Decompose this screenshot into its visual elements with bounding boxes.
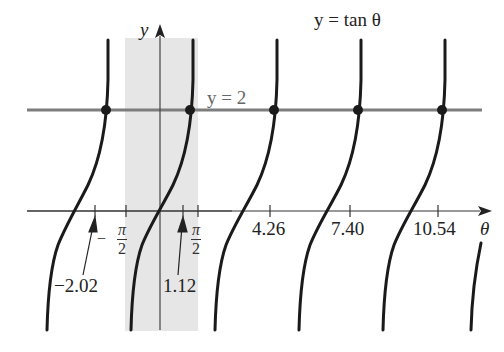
tick-label-neg-2-02: −2.02 xyxy=(54,276,98,295)
intersection-point xyxy=(101,105,111,115)
intersection-point xyxy=(353,105,363,115)
neg-sign: − xyxy=(97,231,106,247)
tick-label-4-26: 4.26 xyxy=(252,219,285,238)
tan-branch-5 xyxy=(383,40,445,330)
tan-curve xyxy=(47,40,481,330)
tan-branch-4 xyxy=(299,40,361,330)
tick-label-10-54: 10.54 xyxy=(413,219,456,238)
y-axis-arrow-icon xyxy=(155,24,165,38)
theta-axis-label: θ xyxy=(480,219,489,238)
tan-branch-3 xyxy=(215,40,277,330)
tan-equation-diagram: y y = tan θ y = 2 θ − π 2 π 2 −2.02 1.12… xyxy=(0,0,504,352)
intersection-point xyxy=(269,105,279,115)
plot-canvas xyxy=(0,0,504,352)
y-axis-label: y xyxy=(140,20,148,39)
pi-over-2-label: π 2 xyxy=(191,222,201,257)
curve-label: y = tan θ xyxy=(314,10,381,29)
tick-label-7-40: 7.40 xyxy=(331,219,364,238)
arrowhead-icon xyxy=(89,217,97,232)
tick-label-1-12: 1.12 xyxy=(163,276,196,295)
arrow-neg-2-02 xyxy=(83,226,93,275)
line-label: y = 2 xyxy=(207,88,246,107)
intersection-point xyxy=(185,105,195,115)
neg-pi-over-2-label: π 2 xyxy=(117,222,127,257)
intersection-point xyxy=(437,105,447,115)
tan-branch-6 xyxy=(471,243,481,330)
theta-axis-arrow-icon xyxy=(478,206,492,216)
